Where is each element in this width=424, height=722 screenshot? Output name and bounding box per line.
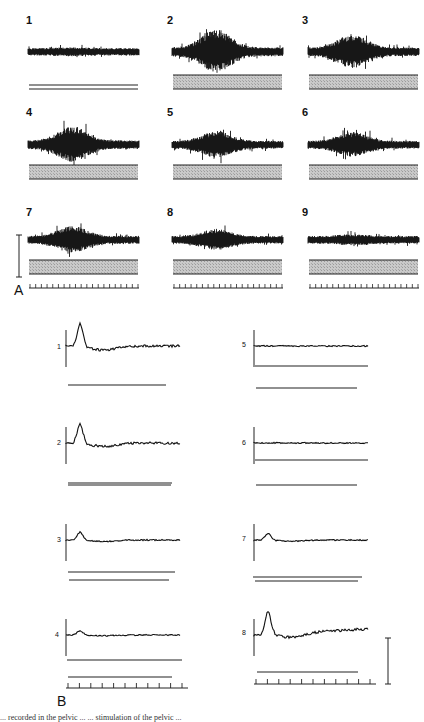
integrated-activity-curve [66,631,180,637]
trace-a1-label: 1 [26,14,32,26]
trace-b4-label: 4 [55,631,59,638]
integrated-activity-curve [66,532,180,542]
trace-a6 [308,128,419,179]
stimulus-bar [29,165,138,179]
trace-b7 [253,524,368,581]
trace-a6-label: 6 [302,106,308,118]
trace-a3-label: 3 [302,14,308,26]
time-axis-b-right [254,679,376,684]
figure-caption-fragment: ... recorded in the pelvic ... ... stimu… [0,713,424,722]
trace-b6-label: 6 [242,439,246,446]
integrated-activity-curve [254,534,368,542]
integrated-activity-curve [66,323,180,351]
time-axis-b-left [66,683,188,688]
trace-a7-label: 7 [26,206,32,218]
trace-b2 [66,423,180,485]
stimulus-bar [309,75,418,89]
nerve-activity-trace [172,130,283,164]
stimulus-bar [173,260,282,274]
trace-a2-label: 2 [167,14,173,26]
stimulus-bar [173,75,282,89]
stimulus-bar [29,260,138,274]
trace-b2-label: 2 [57,439,61,446]
panel-a-letter: A [14,282,23,298]
trace-b3-label: 3 [57,536,61,543]
nerve-activity-trace [172,29,283,73]
trace-a7 [28,223,139,288]
trace-b7-label: 7 [242,535,246,542]
trace-b8-label: 8 [242,629,246,636]
trace-b5-label: 5 [242,341,246,348]
trace-a9-label: 9 [302,206,308,218]
trace-b8 [254,612,368,672]
nerve-activity-trace [308,128,419,159]
trace-b5 [254,330,368,388]
panel-b [66,323,391,688]
trace-a9 [308,231,419,288]
trace-b3 [66,524,180,580]
trace-b4 [66,619,182,677]
trace-a1 [28,45,139,89]
integrated-activity-curve [254,442,368,443]
trace-b1 [66,323,180,385]
trace-a2 [172,29,283,89]
trace-a4-label: 4 [26,106,32,118]
nerve-activity-trace [308,34,419,69]
trace-b6 [254,427,368,485]
nerve-activity-trace [28,45,139,57]
integrated-activity-curve [66,423,180,447]
panel-a [16,29,419,288]
trace-a4 [28,121,139,179]
trace-a8 [172,226,283,289]
nerve-activity-trace [28,223,139,257]
trace-a5 [172,130,283,179]
stimulus-bar [173,165,282,179]
stimulus-bar [309,260,418,274]
trace-a5-label: 5 [167,106,173,118]
stimulus-bar [309,165,418,179]
trace-a8-label: 8 [167,206,173,218]
trace-a3 [308,34,419,89]
nerve-activity-trace [308,231,419,247]
integrated-activity-curve [254,612,368,639]
panel-b-letter: B [57,693,66,709]
trace-b1-label: 1 [57,343,61,350]
integrated-activity-curve [254,345,368,346]
nerve-activity-trace [172,226,283,250]
